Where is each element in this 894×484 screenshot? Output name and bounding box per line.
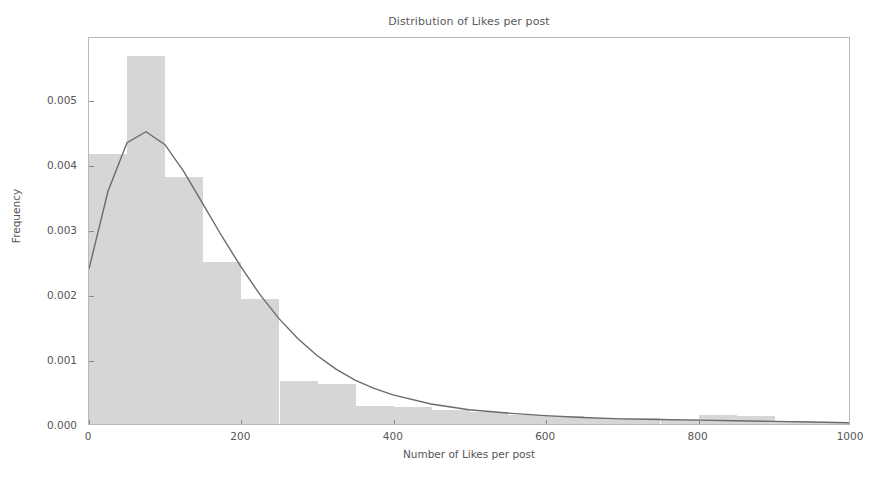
y-axis-title: Frequency: [10, 136, 22, 296]
x-axis-tick-label: 200: [230, 430, 250, 442]
plot-area: [88, 37, 850, 425]
kde-curve-path: [89, 132, 849, 423]
x-axis-tick-label: 400: [383, 430, 403, 442]
y-axis-tick-label: 0.000: [47, 419, 77, 431]
y-axis-tick-label: 0.002: [47, 289, 77, 301]
x-axis-tick-label: 1000: [837, 430, 864, 442]
y-axis-tick-label: 0.005: [47, 94, 77, 106]
x-axis-title: Number of Likes per post: [88, 448, 850, 460]
chart-title: Distribution of Likes per post: [88, 15, 850, 28]
x-axis-tick-label-group: 02004006008001000: [88, 427, 850, 447]
y-axis-tick-label: 0.003: [47, 224, 77, 236]
y-axis-tick-label: 0.001: [47, 354, 77, 366]
y-axis-tick-label: 0.004: [47, 159, 77, 171]
x-axis-tick-label: 800: [688, 430, 708, 442]
kde-curve: [89, 38, 849, 424]
chart-figure: Distribution of Likes per post 0.0000.00…: [0, 0, 894, 484]
plot-inner: [89, 38, 849, 424]
x-axis-tick-label: 0: [85, 430, 92, 442]
x-axis-tick-label: 600: [535, 430, 555, 442]
